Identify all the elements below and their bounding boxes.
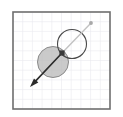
diagram-canvas — [0, 0, 123, 117]
center-marker — [59, 50, 64, 55]
diagram-figure — [0, 0, 123, 117]
ray-endpoint-dot — [89, 21, 93, 25]
